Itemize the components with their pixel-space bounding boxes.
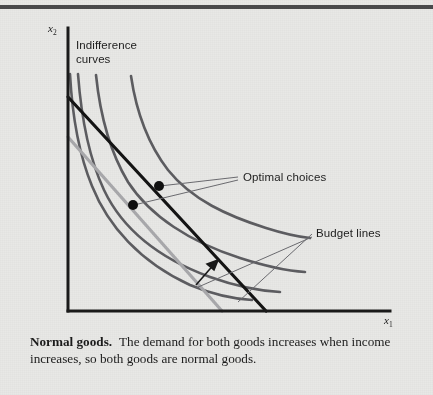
budget-line-low-income [68,137,222,311]
budget-lines-label: Budget lines [316,227,381,241]
x-axis-label: x1 [384,314,393,329]
caption-title: Normal goods. [30,334,112,349]
leader-optimal-choice-high [160,177,238,186]
budget-line-high-income [68,97,266,311]
figure-caption: Normal goods.The demand for both goods i… [30,333,406,367]
optimal-choice-high-income-point [154,181,164,191]
indifference-curves-group [70,74,310,300]
y-axis-label: x2 [48,22,57,37]
budget-lines-group [68,97,266,311]
optimal-choices-label: Optimal choices [243,171,326,185]
indifference-curves-label: Indifference curves [76,39,137,66]
optimal-choice-low-income-point [128,200,138,210]
x-axis-label-sub: 1 [389,320,393,329]
y-axis-label-sub: 2 [53,28,57,37]
figure-panel: x2 x1 Indifference curves Optimal choice… [0,0,433,395]
axes-group [68,28,390,311]
